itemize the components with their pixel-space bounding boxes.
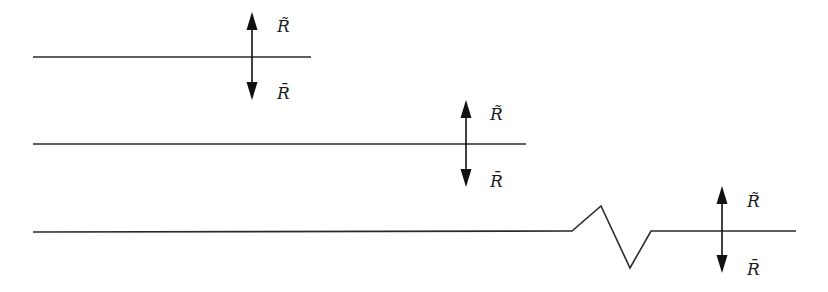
row-1: R̃ R̄ [33, 12, 311, 103]
label-r-bar-3: R̄ [746, 258, 760, 279]
row-2: R̃ R̄ [33, 100, 526, 191]
label-r-bar-2: R̄ [489, 170, 503, 191]
row-3: R̃ R̄ [33, 186, 796, 279]
double-arrow-icon [717, 186, 728, 273]
diagram-canvas: R̃ R̄ R̃ R̄ R̃ R̄ [0, 0, 828, 292]
surface-line-with-kink [33, 206, 796, 268]
label-r-bar-1: R̄ [276, 82, 290, 103]
label-r-tilde-2: R̃ [489, 104, 503, 124]
label-r-tilde-1: R̃ [276, 16, 290, 36]
double-arrow-icon [247, 12, 258, 100]
label-r-tilde-3: R̃ [746, 191, 760, 211]
